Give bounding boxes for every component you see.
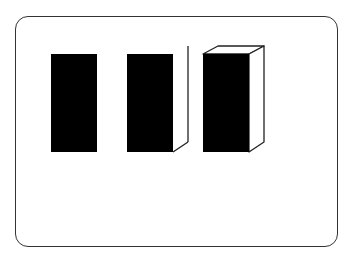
full-box [203, 46, 264, 152]
flat-rectangle [51, 54, 97, 152]
box-front-face [203, 54, 249, 152]
rectangle-with-side [127, 46, 188, 152]
box-side-face [249, 46, 264, 152]
diagram-canvas [0, 0, 352, 260]
